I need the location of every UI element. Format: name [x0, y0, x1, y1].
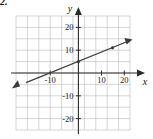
y-tick-label-neg-ten: -10: [62, 91, 73, 101]
marked-point-second: [111, 46, 114, 49]
x-tick-label-neg-ten: -10: [45, 75, 56, 85]
y-tick-label-ten: 10: [65, 45, 74, 55]
x-tick-label-ten: 10: [97, 75, 106, 85]
coordinate-plane-svg: -10 10 20 20 10 -10 -20 x y: [0, 0, 153, 139]
x-tick-label-twenty: 20: [120, 75, 129, 85]
y-tick-label-twenty: 20: [65, 22, 74, 32]
y-tick-label-neg-twenty: -20: [62, 114, 73, 124]
marked-point-y-intercept: [77, 60, 80, 63]
graph-figure: 2.: [0, 0, 153, 139]
problem-number-label: 2.: [0, 0, 14, 5]
y-axis-label: y: [67, 3, 73, 14]
x-axis-label: x: [142, 76, 148, 87]
